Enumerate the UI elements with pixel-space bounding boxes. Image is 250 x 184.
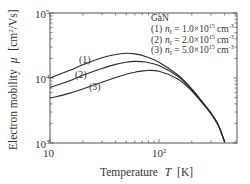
y-tick-label-1e4: 104 — [35, 73, 50, 85]
y-tick-label-1e5: 105 — [35, 8, 50, 20]
curve-label-1: (1) — [79, 54, 91, 66]
x-axis-title: Temperature T [K] — [100, 166, 193, 179]
legend-item-3: (3)nI = 5.0×1015 cm-3 — [151, 44, 234, 56]
legend-title: GaN — [151, 13, 169, 23]
curve-label-2: (2) — [75, 69, 87, 81]
x-tick-label-100: 102 — [152, 147, 167, 159]
data-curves — [50, 53, 225, 142]
legend-item-2: (2)nI = 2.0×1015 cm-3 — [151, 34, 234, 46]
x-tick-label-10: 10 — [43, 147, 55, 159]
legend-item-1: (1)nI = 1.0×1015 cm-3 — [151, 23, 234, 35]
mobility-chart: 105 104 103 10 102 Temperature T [K] Ele… — [0, 0, 250, 184]
legend: GaN (1)nI = 1.0×1015 cm-3(2)nI = 2.0×101… — [151, 13, 234, 56]
curve-label-3: (3) — [89, 81, 101, 93]
curve-3 — [50, 70, 225, 142]
y-axis-title: Electron mobility μ [cm2/Vs] — [7, 9, 20, 150]
